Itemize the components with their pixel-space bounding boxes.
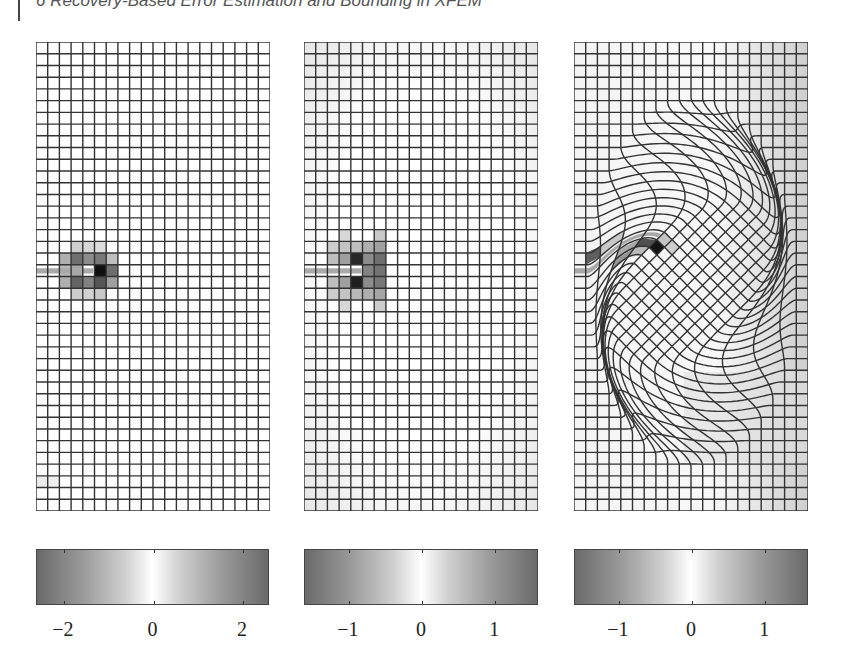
shaded-element bbox=[83, 288, 95, 300]
colorbar-tick bbox=[243, 550, 244, 553]
mesh-panel-deformed-3 bbox=[574, 42, 808, 511]
shaded-element bbox=[339, 277, 351, 289]
shaded-element bbox=[374, 241, 386, 253]
colorbar-tick bbox=[422, 601, 423, 604]
crack-line bbox=[304, 268, 361, 273]
shaded-element bbox=[36, 476, 48, 488]
shaded-element bbox=[339, 241, 351, 253]
shaded-element bbox=[59, 277, 71, 289]
colorbar-tick bbox=[692, 601, 693, 604]
shaded-element bbox=[327, 241, 339, 253]
shaded-element bbox=[106, 253, 118, 265]
colorbar-tick bbox=[64, 601, 65, 604]
shaded-element bbox=[374, 230, 386, 242]
shaded-element bbox=[95, 253, 107, 265]
colorbar-1 bbox=[36, 549, 269, 605]
shaded-element bbox=[351, 277, 363, 289]
colorbar-tick bbox=[154, 601, 155, 604]
shaded-element bbox=[339, 300, 351, 312]
colorbar-tick bbox=[765, 550, 766, 553]
colorbar-2 bbox=[304, 549, 538, 605]
colorbar-tick-label: 0 bbox=[416, 618, 426, 641]
crack-line bbox=[36, 268, 93, 273]
mesh-svg bbox=[36, 42, 270, 511]
mesh-grid bbox=[304, 42, 538, 511]
running-head: 6 Recovery-Based Error Estimation and Bo… bbox=[0, 0, 848, 13]
shaded-element bbox=[95, 241, 107, 253]
shaded-element bbox=[374, 300, 386, 312]
shaded-element bbox=[95, 288, 107, 300]
shaded-element bbox=[71, 277, 83, 289]
shaded-element bbox=[363, 253, 375, 265]
running-head-title: 6 Recovery-Based Error Estimation and Bo… bbox=[36, 0, 482, 11]
colorbar-3 bbox=[574, 549, 808, 605]
running-head-rule bbox=[18, 0, 20, 21]
shaded-element bbox=[363, 265, 375, 277]
mesh-grid bbox=[36, 42, 270, 511]
shaded-element bbox=[83, 277, 95, 289]
shaded-element bbox=[48, 476, 60, 488]
colorbar-tick-label: 1 bbox=[759, 618, 769, 641]
shaded-element bbox=[351, 253, 363, 265]
shaded-element bbox=[374, 253, 386, 265]
colorbar-tick bbox=[495, 601, 496, 604]
shaded-element bbox=[71, 288, 83, 300]
colorbar-tick-label: 0 bbox=[686, 618, 696, 641]
colorbar-tick bbox=[349, 550, 350, 553]
shaded-element bbox=[363, 241, 375, 253]
shaded-element bbox=[59, 253, 71, 265]
shaded-element bbox=[363, 277, 375, 289]
colorbar-tick-label: −2 bbox=[52, 618, 73, 641]
colorbar-tick bbox=[243, 601, 244, 604]
shaded-element bbox=[363, 288, 375, 300]
shaded-element bbox=[71, 253, 83, 265]
colorbar-tick-label: 0 bbox=[148, 618, 158, 641]
shaded-element bbox=[339, 230, 351, 242]
colorbar-tick bbox=[154, 550, 155, 553]
shaded-element bbox=[83, 241, 95, 253]
colorbar-tick bbox=[619, 601, 620, 604]
shaded-element bbox=[106, 277, 118, 289]
colorbar-tick bbox=[619, 550, 620, 553]
colorbar-tick bbox=[692, 550, 693, 553]
colorbar-tick bbox=[64, 550, 65, 553]
shaded-element bbox=[351, 288, 363, 300]
shaded-element bbox=[374, 265, 386, 277]
colorbar-tick bbox=[765, 601, 766, 604]
shaded-element bbox=[374, 277, 386, 289]
shaded-element bbox=[374, 288, 386, 300]
mesh-panel-structured-2 bbox=[304, 42, 538, 511]
colorbar-tick-label: 2 bbox=[237, 618, 247, 641]
colorbar-tick-label: −1 bbox=[607, 618, 628, 641]
shaded-element bbox=[106, 265, 118, 277]
shaded-element bbox=[71, 241, 83, 253]
mesh-svg bbox=[304, 42, 538, 511]
shaded-element bbox=[327, 253, 339, 265]
shaded-element bbox=[95, 277, 107, 289]
mesh-svg bbox=[574, 42, 808, 511]
colorbar-tick bbox=[349, 601, 350, 604]
colorbar-tick bbox=[495, 550, 496, 553]
shaded-element bbox=[339, 253, 351, 265]
colorbar-tick-label: 1 bbox=[489, 618, 499, 641]
shaded-element bbox=[351, 241, 363, 253]
colorbar-tick-label: −1 bbox=[337, 618, 358, 641]
mesh-panel-structured-1 bbox=[36, 42, 270, 511]
shaded-element bbox=[327, 288, 339, 300]
colorbar-tick bbox=[422, 550, 423, 553]
shaded-element bbox=[339, 288, 351, 300]
shaded-element bbox=[95, 265, 107, 277]
shaded-element bbox=[83, 253, 95, 265]
shaded-element bbox=[327, 277, 339, 289]
